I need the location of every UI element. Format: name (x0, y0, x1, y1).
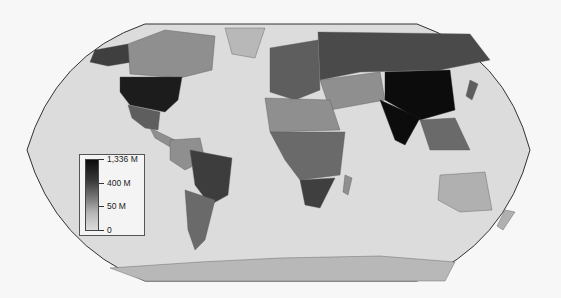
legend-label-max: 1,336 M (107, 155, 138, 164)
legend-tick (99, 183, 104, 184)
legend-color-bar (85, 159, 99, 231)
legend-tick (99, 230, 104, 231)
region-alaska (90, 44, 132, 66)
legend-tick (99, 206, 104, 207)
region-north-africa (265, 98, 340, 132)
legend-tick (99, 159, 104, 160)
world-map (0, 0, 561, 298)
legend-label-50m: 50 M (107, 202, 126, 211)
legend-label-zero: 0 (107, 226, 112, 235)
region-europe (270, 40, 320, 100)
legend-label-400m: 400 M (107, 179, 131, 188)
legend: 1,336 M 400 M 50 M 0 (79, 154, 145, 236)
